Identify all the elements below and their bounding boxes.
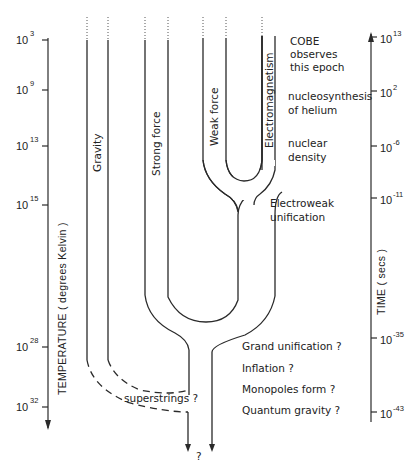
dotted-continuations: [87, 17, 262, 40]
arrow-down-icon: [209, 444, 215, 452]
time-tick-exponent: -6: [393, 138, 400, 147]
time-tick-label: 10: [380, 33, 392, 45]
time-tick-label: 10: [380, 87, 392, 99]
cobe-annotation: COBE observes this epoch: [290, 35, 344, 73]
time-tick-label: 10: [380, 334, 392, 346]
nuclear-density-annotation: nuclear density: [288, 137, 328, 163]
temperature-tick-exponent: 28: [30, 336, 38, 345]
temperature-tick: 10 28: [16, 336, 48, 353]
grand-unification-annotation: Grand unification ?: [242, 340, 342, 352]
time-tick-label: 10: [380, 194, 392, 206]
electromagnetism-label: Electromagnetism: [263, 52, 275, 148]
temperature-tick-exponent: 32: [30, 396, 38, 405]
temperature-tick-exponent: 13: [30, 135, 38, 144]
time-tick: 10 -6: [371, 138, 400, 154]
time-tick: 10 -35: [371, 330, 404, 346]
arrow-down-icon: [185, 444, 191, 452]
gravity-label: Gravity: [91, 134, 103, 172]
strong-force-label: Strong force: [150, 112, 162, 176]
temperature-tick-label: 10: [16, 401, 28, 413]
time-axis: 10 13 10 2 10 -6 10 -11 10 -35 10 -43 T: [368, 29, 404, 422]
temperature-tick: 10 9: [16, 79, 48, 96]
temperature-tick-label: 10: [16, 199, 28, 211]
svg-text:nuclear: nuclear: [288, 137, 328, 149]
bottom-arrows: [185, 412, 215, 452]
temperature-tick-label: 10: [16, 341, 28, 353]
quantum-gravity-annotation: Quantum gravity ?: [242, 404, 340, 416]
svg-text:this epoch: this epoch: [290, 61, 344, 73]
svg-text:density: density: [288, 151, 327, 163]
temperature-tick-exponent: 3: [30, 29, 34, 38]
temperature-tick-exponent: 15: [30, 194, 38, 203]
time-tick-exponent: -35: [393, 330, 404, 339]
superstrings-annotation: superstrings ?: [124, 392, 198, 404]
svg-text:of helium: of helium: [288, 104, 337, 116]
gravity-band: [87, 40, 188, 412]
monopoles-annotation: Monopoles form ?: [242, 383, 335, 395]
temperature-tick: 10 3: [16, 29, 48, 46]
temperature-axis: 10 3 10 9 10 13 10 15 10 28 10 32 TEMPE: [16, 29, 68, 430]
time-tick-exponent: 2: [393, 83, 397, 92]
unknown-origin-annotation: ?: [196, 450, 202, 462]
svg-text:COBE: COBE: [290, 35, 319, 47]
time-tick-exponent: -11: [393, 190, 403, 199]
time-tick: 10 13: [371, 29, 401, 45]
time-tick-exponent: -43: [393, 404, 404, 413]
temperature-axis-title: TEMPERATURE ( degrees Kelvin ): [56, 222, 68, 395]
svg-text:observes: observes: [290, 48, 337, 60]
temperature-tick-label: 10: [16, 140, 28, 152]
svg-text:unification: unification: [270, 211, 325, 223]
time-axis-title: TIME ( secs ): [375, 249, 387, 315]
time-tick-label: 10: [380, 142, 392, 154]
svg-text:nucleosynthesis: nucleosynthesis: [288, 90, 372, 102]
svg-text:Electroweak: Electroweak: [270, 197, 335, 209]
temperature-axis-arrow-icon: [45, 420, 51, 430]
time-tick-label: 10: [380, 408, 392, 420]
temperature-tick: 10 13: [16, 135, 48, 152]
inflation-annotation: Inflation ?: [242, 362, 294, 374]
temperature-tick-label: 10: [16, 34, 28, 46]
temperature-tick: 10 32: [16, 396, 48, 413]
temperature-tick: 10 15: [16, 194, 48, 211]
temperature-tick-exponent: 9: [30, 79, 34, 88]
time-tick: 10 -43: [371, 404, 404, 420]
force-unification-diagram: 10 3 10 9 10 13 10 15 10 28 10 32 TEMPE: [0, 0, 417, 466]
electroweak-annotation: Electroweak unification: [270, 197, 335, 223]
time-tick: 10 2: [371, 83, 397, 99]
weak-force-label: Weak force: [208, 87, 220, 146]
nucleosynthesis-annotation: nucleosynthesis of helium: [288, 90, 372, 116]
temperature-tick-label: 10: [16, 84, 28, 96]
time-tick: 10 -11: [371, 190, 403, 206]
time-tick-exponent: 13: [393, 29, 401, 38]
